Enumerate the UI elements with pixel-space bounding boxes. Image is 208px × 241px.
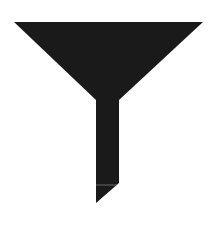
funnel-icon <box>0 0 208 241</box>
funnel-stem <box>96 100 119 203</box>
funnel-cone <box>14 22 203 100</box>
funnel-icon-canvas <box>0 0 208 241</box>
